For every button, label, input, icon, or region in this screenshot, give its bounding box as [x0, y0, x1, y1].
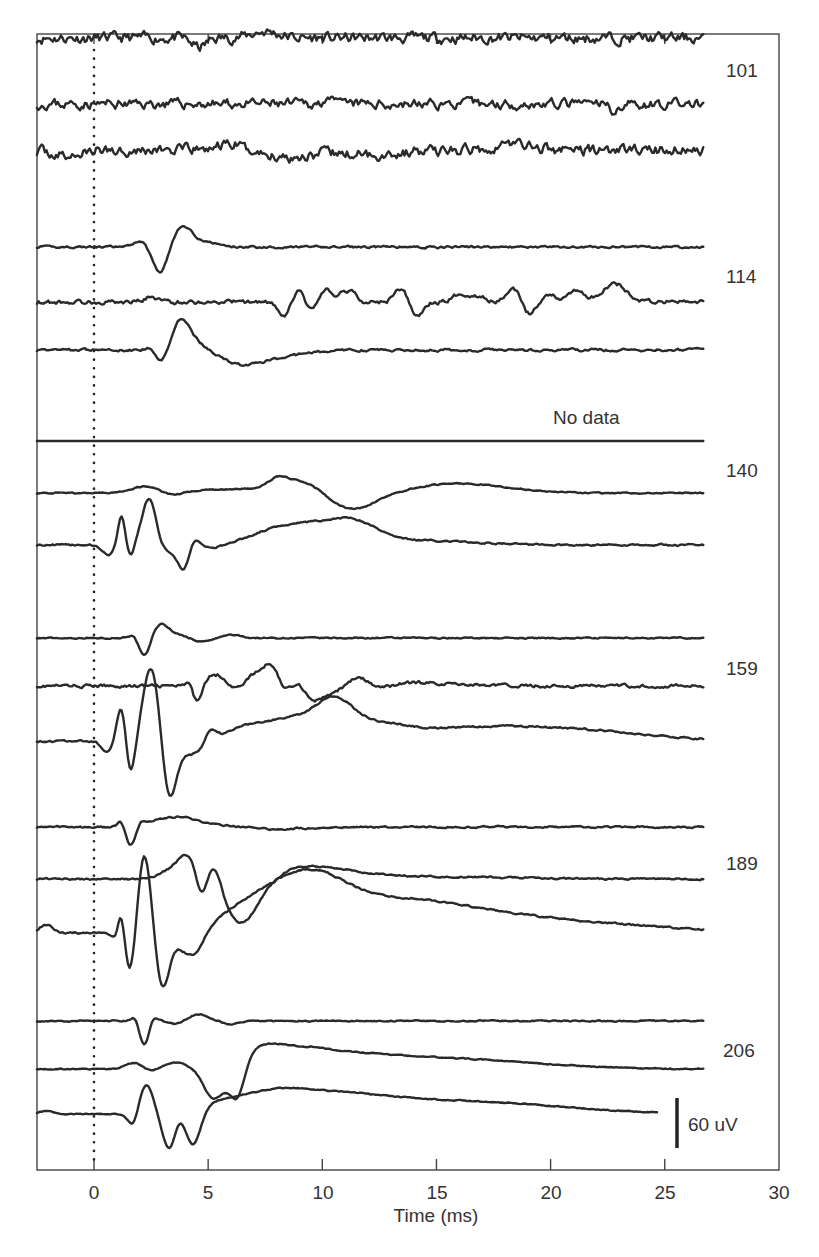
group-label-159: 159 — [726, 658, 758, 679]
trace-101-a — [37, 29, 703, 50]
trace-140-b — [37, 499, 703, 570]
scale-bar-label: 60 uV — [688, 1114, 738, 1135]
trace-114-a — [37, 226, 703, 272]
trace-140-a — [37, 476, 703, 509]
group-label-189: 189 — [726, 853, 758, 874]
trace-206-a — [37, 1014, 703, 1044]
x-tick-labels: 0 5 10 15 20 25 30 — [89, 1182, 790, 1203]
bottom-x-ticks — [94, 1159, 665, 1170]
x-tick-label: 15 — [426, 1182, 447, 1203]
group-label-101: 101 — [726, 60, 758, 81]
trace-159-a — [37, 624, 703, 655]
group-label-140: 140 — [726, 460, 758, 481]
traces-group — [37, 29, 703, 1148]
trace-189-a — [37, 816, 703, 844]
trace-159-c — [37, 669, 703, 795]
plot-frame — [37, 34, 779, 1170]
x-axis-title: Time (ms) — [394, 1205, 479, 1226]
x-tick-label: 10 — [312, 1182, 333, 1203]
group-label-114: 114 — [726, 266, 757, 287]
x-tick-label: 5 — [203, 1182, 214, 1203]
trace-101-c — [37, 139, 703, 163]
trace-114-c — [37, 319, 703, 366]
group-label-206: 206 — [723, 1040, 755, 1061]
evoked-potential-chart: 101 114 No data 140 159 189 206 60 uV 0 … — [0, 0, 819, 1257]
trace-114-b — [37, 282, 703, 316]
x-tick-label: 0 — [89, 1182, 100, 1203]
trace-101-b — [37, 97, 703, 115]
x-tick-label: 30 — [768, 1182, 789, 1203]
no-data-label: No data — [553, 407, 620, 428]
trace-189-c — [37, 856, 703, 986]
trace-206-b — [37, 1043, 703, 1099]
trace-206-c — [37, 1085, 657, 1148]
x-tick-label: 20 — [540, 1182, 561, 1203]
trace-159-b — [37, 664, 703, 701]
x-tick-label: 25 — [654, 1182, 675, 1203]
